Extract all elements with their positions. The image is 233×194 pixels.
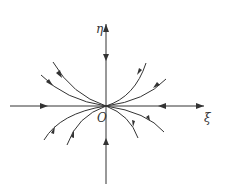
flow-arrow-bottom-icon (103, 138, 109, 145)
phase-portrait-diagram: η ξ O (0, 0, 233, 194)
eta-axis-label: η (96, 22, 104, 36)
trajectory-upper-left-inner (41, 75, 106, 106)
flow-arrow-right-icon (158, 103, 166, 109)
eta-axis (103, 24, 109, 184)
xi-axis-label: ξ (204, 111, 212, 125)
trajectory-arrows (46, 68, 160, 138)
eta-axis-arrowhead-icon (103, 24, 109, 32)
origin-label: O (97, 111, 107, 125)
flow-arrow-left-icon (40, 103, 48, 109)
flow-arrow-top-icon (103, 54, 109, 61)
arrow-upper-left-inner-icon (46, 79, 53, 86)
xi-axis-arrowhead-icon (196, 103, 204, 109)
